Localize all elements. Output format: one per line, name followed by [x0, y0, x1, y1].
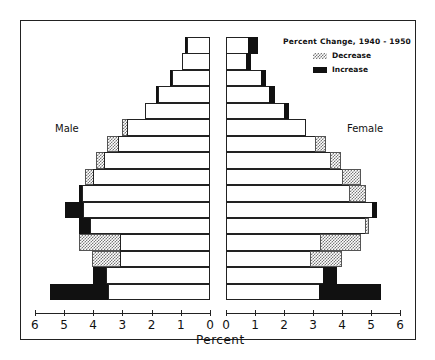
female-change-bar: [248, 37, 258, 54]
right-axis-tick-label: 4: [334, 318, 350, 332]
female-bar: [226, 267, 324, 284]
female-change-bar: [310, 251, 342, 268]
female-bar: [226, 53, 247, 70]
female-change-bar: [261, 70, 266, 87]
male-bar: [158, 86, 210, 103]
right-axis-tick: [400, 310, 401, 316]
right-axis-tick: [313, 310, 314, 316]
right-axis-tick: [255, 310, 256, 316]
female-change-bar: [330, 152, 341, 169]
female-change-bar: [320, 234, 361, 251]
left-axis-tick-label: 6: [27, 318, 43, 332]
male-bar: [104, 152, 210, 169]
male-bar: [120, 234, 210, 251]
female-bar: [226, 218, 366, 235]
right-axis-tick-label: 0: [218, 318, 234, 332]
male-label: Male: [55, 123, 79, 134]
left-axis-tick-label: 5: [56, 318, 72, 332]
female-change-bar: [246, 53, 251, 70]
female-bar: [226, 136, 316, 153]
male-change-bar: [50, 284, 109, 301]
female-change-bar: [372, 202, 377, 219]
male-bar: [90, 218, 210, 235]
right-axis-tick-label: 3: [305, 318, 321, 332]
x-axis-title: Percent: [196, 333, 245, 347]
female-change-bar: [323, 267, 337, 284]
male-bar: [93, 169, 210, 186]
male-bar: [82, 185, 210, 202]
legend-label-increase: Increase: [332, 65, 368, 74]
female-bar: [226, 103, 285, 120]
right-axis-tick: [342, 310, 343, 316]
female-change-bar: [365, 218, 369, 235]
right-axis-tick-label: 6: [392, 318, 408, 332]
chart-title: Percent Change, 1940 - 1950: [283, 37, 411, 46]
female-bar: [226, 251, 311, 268]
left-axis-tick-label: 0: [202, 318, 218, 332]
legend-label-decrease: Decrease: [332, 51, 371, 60]
male-bar: [118, 136, 210, 153]
left-axis-tick: [35, 310, 36, 316]
left-axis-tick: [152, 310, 153, 316]
right-axis-tick-label: 2: [276, 318, 292, 332]
male-bar: [145, 103, 210, 120]
male-change-bar: [92, 251, 121, 268]
male-bar: [108, 284, 210, 301]
female-change-bar: [284, 103, 289, 120]
female-bar: [226, 152, 331, 169]
female-bar: [226, 202, 373, 219]
right-axis-tick-label: 1: [247, 318, 263, 332]
female-bar: [226, 234, 321, 251]
male-bar: [187, 37, 210, 54]
male-bar: [106, 267, 210, 284]
legend-item-decrease: Decrease: [313, 51, 371, 60]
female-bar: [226, 86, 270, 103]
male-bar: [172, 70, 210, 87]
left-axis-tick: [93, 310, 94, 316]
female-bar: [226, 169, 343, 186]
male-change-bar: [79, 234, 121, 251]
female-label: Female: [347, 123, 383, 134]
crosshatch-swatch-icon: [313, 53, 327, 59]
left-axis-tick-label: 3: [114, 318, 130, 332]
female-bar: [226, 185, 350, 202]
female-change-bar: [349, 185, 366, 202]
male-bar: [182, 53, 210, 70]
male-bar: [120, 251, 210, 268]
female-bar: [226, 119, 306, 136]
left-axis-tick-label: 2: [144, 318, 160, 332]
female-bar: [226, 284, 320, 301]
male-bar: [83, 202, 210, 219]
female-change-bar: [269, 86, 275, 103]
female-change-bar: [319, 284, 381, 301]
right-axis-tick: [284, 310, 285, 316]
left-axis-tick-label: 1: [173, 318, 189, 332]
female-change-bar: [342, 169, 361, 186]
left-axis-tick-label: 4: [85, 318, 101, 332]
left-axis-tick: [122, 310, 123, 316]
male-bar: [127, 119, 210, 136]
left-axis-tick: [64, 310, 65, 316]
female-bar: [226, 37, 249, 54]
left-axis-tick: [181, 310, 182, 316]
female-bar: [226, 70, 262, 87]
female-change-bar: [315, 136, 326, 153]
right-axis-tick: [226, 310, 227, 316]
right-axis-tick-label: 5: [363, 318, 379, 332]
male-change-bar: [93, 267, 107, 284]
left-axis-tick: [210, 310, 211, 316]
legend-item-increase: Increase: [313, 65, 368, 74]
solid-swatch-icon: [313, 67, 327, 73]
right-axis-tick: [371, 310, 372, 316]
male-change-bar: [65, 202, 84, 219]
